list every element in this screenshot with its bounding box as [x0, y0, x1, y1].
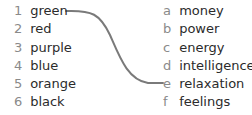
item-label: relaxation	[179, 76, 244, 91]
color-list: 1 green 2 red 3 purple 4 blue 5 orange 6…	[14, 2, 76, 112]
item-number: 1	[14, 2, 26, 20]
item-number: 4	[14, 57, 26, 75]
item-label: intelligence	[179, 58, 252, 73]
item-label: power	[179, 21, 219, 36]
item-letter: f	[163, 93, 175, 111]
color-item-3[interactable]: 3 purple	[14, 39, 76, 57]
item-label: blue	[30, 58, 58, 73]
color-item-6[interactable]: 6 black	[14, 93, 76, 111]
item-letter: c	[163, 39, 175, 57]
color-item-1[interactable]: 1 green	[14, 2, 76, 20]
meaning-item-a[interactable]: a money	[163, 2, 252, 20]
color-item-4[interactable]: 4 blue	[14, 57, 76, 75]
item-number: 6	[14, 93, 26, 111]
item-label: energy	[179, 40, 224, 55]
meaning-item-f[interactable]: f feelings	[163, 93, 252, 111]
item-letter: d	[163, 57, 175, 75]
meaning-item-d[interactable]: d intelligence	[163, 57, 252, 75]
item-label: black	[30, 94, 65, 109]
item-label: green	[30, 3, 68, 18]
item-label: money	[179, 3, 224, 18]
meaning-item-b[interactable]: b power	[163, 20, 252, 38]
item-label: orange	[30, 76, 76, 91]
item-number: 2	[14, 20, 26, 38]
item-letter: b	[163, 20, 175, 38]
item-number: 5	[14, 75, 26, 93]
meaning-item-e[interactable]: e relaxation	[163, 75, 252, 93]
item-number: 3	[14, 39, 26, 57]
item-letter: a	[163, 2, 175, 20]
item-label: purple	[30, 40, 72, 55]
color-item-5[interactable]: 5 orange	[14, 75, 76, 93]
item-label: feelings	[179, 94, 230, 109]
color-item-2[interactable]: 2 red	[14, 20, 76, 38]
item-label: red	[30, 21, 51, 36]
meaning-item-c[interactable]: c energy	[163, 39, 252, 57]
meaning-list: a money b power c energy d intelligence …	[163, 2, 252, 112]
item-letter: e	[163, 75, 175, 93]
